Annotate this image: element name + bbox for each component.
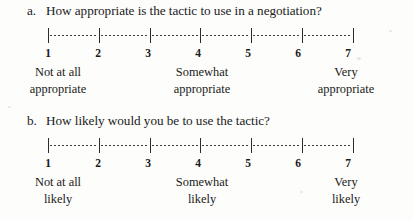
scale-segment-5-6: [253, 35, 301, 36]
scale-tick-3[interactable]: [150, 28, 151, 43]
question-b-text: How likely would you be to use the tacti…: [46, 112, 270, 129]
scale-tick-3[interactable]: [150, 138, 151, 153]
scale-tick-2[interactable]: [99, 28, 100, 43]
likert-scale-b[interactable]: [48, 136, 354, 154]
scale-segment-2-3: [101, 35, 149, 36]
question-a-enumerator: a.: [27, 2, 46, 19]
scale-number-6[interactable]: 6: [292, 47, 304, 60]
anchor-mid-b-line1: Somewhat: [176, 175, 228, 189]
anchor-high-a: Very appropriate: [294, 64, 398, 97]
question-item-a: a. How appropriate is the tactic to use …: [0, 2, 413, 100]
scale-segment-1-2: [50, 145, 98, 146]
scale-segment-2-3: [101, 145, 149, 146]
scale-segment-3-4: [152, 35, 200, 36]
scale-tick-7[interactable]: [353, 138, 354, 153]
scale-tick-7[interactable]: [353, 28, 354, 43]
scale-number-2[interactable]: 2: [92, 157, 104, 170]
question-b-heading: b. How likely would you be to use the ta…: [0, 112, 413, 129]
anchor-mid-a: Somewhat appropriate: [150, 64, 254, 97]
anchor-low-b-line1: Not at all: [35, 175, 81, 189]
scale-number-3[interactable]: 3: [142, 47, 154, 60]
question-a-heading: a. How appropriate is the tactic to use …: [0, 2, 413, 19]
anchor-mid-b-line2: likely: [150, 191, 254, 208]
scale-segment-3-4: [152, 145, 200, 146]
anchor-high-b-line1: Very: [334, 175, 357, 189]
scale-tick-1[interactable]: [48, 138, 49, 153]
anchor-mid-a-line1: Somewhat: [176, 65, 228, 79]
scale-number-2[interactable]: 2: [92, 47, 104, 60]
anchor-high-a-line1: Very: [334, 65, 357, 79]
question-b-anchor-labels: Not at all likely Somewhat likely Very l…: [0, 174, 413, 210]
scale-tick-6[interactable]: [302, 28, 303, 43]
anchor-low-a-line2: appropriate: [6, 81, 110, 98]
anchor-mid-a-line2: appropriate: [150, 81, 254, 98]
anchor-low-b: Not at all likely: [6, 174, 110, 207]
scale-tick-4[interactable]: [200, 138, 201, 153]
question-a-numbers-row: 1 2 3 4 5 6 7: [0, 47, 413, 62]
anchor-mid-b: Somewhat likely: [150, 174, 254, 207]
scale-number-7[interactable]: 7: [342, 47, 354, 60]
scale-tick-5[interactable]: [251, 28, 252, 43]
survey-page: a. How appropriate is the tactic to use …: [0, 0, 413, 220]
scale-number-1[interactable]: 1: [42, 157, 54, 170]
question-a-anchor-labels: Not at all appropriate Somewhat appropri…: [0, 64, 413, 100]
scale-number-7[interactable]: 7: [342, 157, 354, 170]
scale-segment-6-7: [304, 145, 352, 146]
anchor-low-a-line1: Not at all: [35, 65, 81, 79]
anchor-high-a-line2: appropriate: [294, 81, 398, 98]
scan-speckle: [8, 106, 11, 108]
scale-number-3[interactable]: 3: [142, 157, 154, 170]
scale-number-5[interactable]: 5: [242, 47, 254, 60]
scale-tick-5[interactable]: [251, 138, 252, 153]
scale-tick-6[interactable]: [302, 138, 303, 153]
scale-segment-6-7: [304, 35, 352, 36]
question-a-text: How appropriate is the tactic to use in …: [46, 2, 322, 19]
question-b-scale-line: [0, 136, 413, 156]
anchor-high-b: Very likely: [294, 174, 398, 207]
question-a-scale-line: [0, 26, 413, 46]
scale-number-6[interactable]: 6: [292, 157, 304, 170]
scale-number-4[interactable]: 4: [192, 157, 204, 170]
scale-number-4[interactable]: 4: [192, 47, 204, 60]
question-item-b: b. How likely would you be to use the ta…: [0, 112, 413, 210]
scale-tick-1[interactable]: [48, 28, 49, 43]
likert-scale-a[interactable]: [48, 26, 354, 44]
scale-segment-5-6: [253, 145, 301, 146]
scale-segment-1-2: [50, 35, 98, 36]
scale-number-5[interactable]: 5: [242, 157, 254, 170]
anchor-high-b-line2: likely: [294, 191, 398, 208]
scale-number-1[interactable]: 1: [42, 47, 54, 60]
scale-segment-4-5: [202, 35, 250, 36]
question-b-numbers-row: 1 2 3 4 5 6 7: [0, 157, 413, 172]
scale-tick-2[interactable]: [99, 138, 100, 153]
question-b-enumerator: b.: [27, 112, 46, 129]
anchor-low-a: Not at all appropriate: [6, 64, 110, 97]
anchor-low-b-line2: likely: [6, 191, 110, 208]
scale-segment-4-5: [202, 145, 250, 146]
scale-tick-4[interactable]: [200, 28, 201, 43]
